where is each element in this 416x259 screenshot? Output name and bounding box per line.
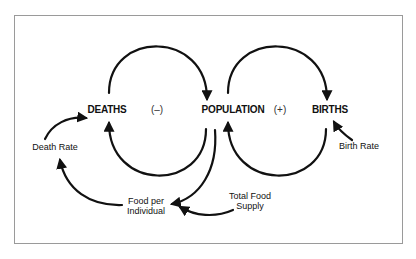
arrow-population-to-deaths bbox=[109, 123, 206, 176]
total-food-supply-line1: Total Food bbox=[229, 191, 271, 201]
node-population: POPULATION bbox=[202, 105, 265, 115]
loop-sign-negative: (–) bbox=[151, 105, 163, 115]
factor-birth-rate: Birth Rate bbox=[339, 141, 379, 151]
food-per-individual-line2: Individual bbox=[127, 206, 165, 216]
factor-death-rate: Death Rate bbox=[32, 142, 78, 152]
node-births: BIRTHS bbox=[312, 105, 348, 115]
factor-food-per-individual: Food per Individual bbox=[127, 196, 165, 216]
arrow-population-to-food bbox=[172, 130, 215, 204]
loop-sign-positive: (+) bbox=[274, 105, 287, 115]
causal-loop-arrows bbox=[0, 0, 416, 259]
arrow-total-food-to-food bbox=[180, 207, 233, 215]
factor-total-food-supply: Total Food Supply bbox=[229, 191, 271, 211]
node-deaths: DEATHS bbox=[87, 105, 126, 115]
arrow-population-to-births bbox=[228, 46, 327, 99]
total-food-supply-line2: Supply bbox=[229, 201, 271, 211]
food-per-individual-line1: Food per bbox=[127, 196, 165, 206]
arrow-births-to-population bbox=[228, 123, 326, 176]
arrow-birth-rate-to-births bbox=[334, 122, 352, 140]
arrow-food-to-death-rate bbox=[60, 160, 122, 205]
arrow-death-rate-to-deaths bbox=[45, 118, 86, 139]
arrow-deaths-to-population bbox=[109, 46, 207, 99]
